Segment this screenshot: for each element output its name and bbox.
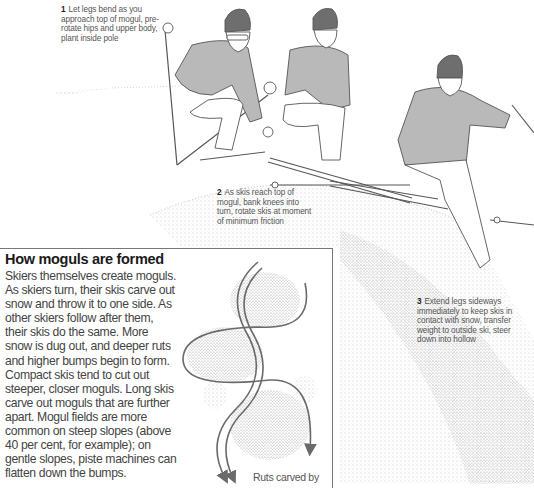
- step-number: 3: [417, 297, 421, 306]
- caption-text: Let legs bend as you approach top of mog…: [61, 5, 159, 43]
- skier-figure-2: [264, 8, 412, 203]
- caption-text: As skis reach top of mogul, bank knees i…: [217, 188, 311, 226]
- step-number: 2: [217, 188, 221, 197]
- caption-step-1: 1Let legs bend as you approach top of mo…: [61, 5, 161, 43]
- diagram-label: Ruts carved by: [253, 471, 319, 483]
- skier-figure-1: [163, 9, 273, 165]
- caption-step-2: 2As skis reach top of mogul, bank knees …: [217, 188, 317, 226]
- caption-step-3: 3Extend legs sideways immediately to kee…: [417, 297, 529, 345]
- inset-body-text: Skiers themselves create moguls. As skie…: [5, 269, 177, 480]
- caption-text: Extend legs sideways immediately to keep…: [417, 297, 512, 344]
- inset-title: How moguls are formed: [5, 251, 164, 267]
- step-number: 1: [61, 5, 65, 14]
